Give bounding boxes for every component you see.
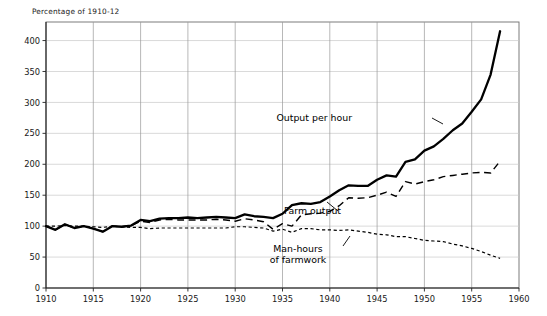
series-annotation-label: of farmwork — [270, 254, 327, 265]
series-line-dashed — [46, 161, 500, 232]
annotation-leader-line — [432, 118, 443, 124]
y-axis-tick-label: 150 — [24, 190, 40, 200]
y-axis-tick-label: 100 — [24, 221, 40, 231]
x-axis-tick-label: 1960 — [508, 294, 529, 304]
y-axis-tick-label: 200 — [24, 159, 40, 169]
y-axis-tick-labels: 050100150200250300350400 — [24, 36, 46, 293]
series-line-solid — [46, 31, 500, 231]
series-annotations: Output per hourFarm outputMan-hoursof fa… — [270, 112, 443, 265]
y-axis-tick-label: 50 — [29, 252, 40, 262]
x-axis-tick-label: 1955 — [461, 294, 482, 304]
series-annotation-label: Man-hours — [273, 243, 323, 254]
annotation-leader-line — [343, 236, 350, 246]
x-axis-tick-label: 1950 — [414, 294, 435, 304]
x-axis-tick-label: 1915 — [83, 294, 104, 304]
x-axis-tick-label: 1935 — [272, 294, 293, 304]
line-chart: 050100150200250300350400 191019151920192… — [0, 0, 547, 316]
data-series-group — [46, 31, 500, 258]
x-axis-tick-labels: 1910191519201925193019351940194519501955… — [35, 288, 529, 304]
y-axis-title: Percentage of 1910-12 — [32, 7, 119, 16]
x-axis-tick-label: 1925 — [177, 294, 198, 304]
x-axis-tick-label: 1920 — [130, 294, 151, 304]
y-axis-tick-label: 300 — [24, 98, 40, 108]
y-axis-tick-label: 250 — [24, 128, 40, 138]
x-axis-tick-label: 1945 — [367, 294, 388, 304]
series-annotation-label: Output per hour — [276, 112, 352, 123]
x-axis-tick-label: 1940 — [319, 294, 340, 304]
x-axis-tick-label: 1930 — [225, 294, 246, 304]
y-axis-tick-label: 0 — [35, 283, 40, 293]
x-axis-tick-label: 1910 — [35, 294, 56, 304]
y-axis-tick-label: 350 — [24, 67, 40, 77]
y-axis-tick-label: 400 — [24, 36, 40, 46]
series-annotation-label: Farm output — [284, 205, 341, 216]
chart-container: 050100150200250300350400 191019151920192… — [0, 0, 547, 316]
